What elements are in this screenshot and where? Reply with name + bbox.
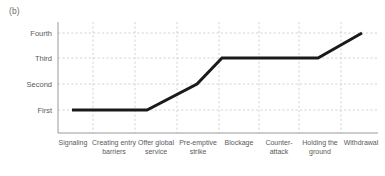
- data-line: [72, 33, 362, 110]
- y-tick-third: Third: [35, 54, 58, 63]
- horizontal-gridlines: [58, 33, 378, 110]
- x-tick-blockage: Blockage: [217, 139, 261, 148]
- x-tick-holding-the-ground: Holding the ground: [298, 139, 342, 156]
- y-tick-second: Second: [27, 80, 58, 89]
- y-tick-first: First: [37, 106, 58, 115]
- x-tick-counter-attack: Counter-attack: [257, 139, 301, 156]
- x-tick-withdrawal: Withdrawal: [339, 139, 383, 148]
- x-tick-signaling: Signaling: [51, 139, 95, 148]
- x-tick-creating-entry-barriers: Creating entry barriers: [92, 139, 136, 156]
- x-tick-offer-global-service: Offer global service: [134, 139, 178, 156]
- y-tick-fourth: Fourth: [30, 29, 58, 38]
- x-tick-pre-emptive-strike: Pre-emptive strike: [176, 139, 220, 156]
- vertical-gridlines: [93, 22, 341, 133]
- figure-panel: (b) Fourth Third Second First Signaling: [0, 0, 385, 176]
